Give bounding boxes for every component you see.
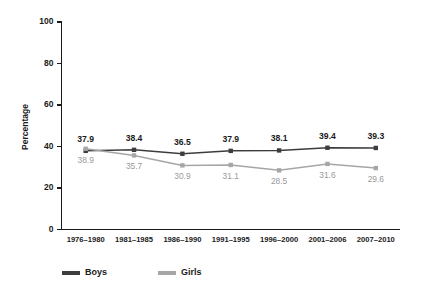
data-label-girls-0: 38.9 <box>78 155 95 165</box>
y-tick-label: 20 <box>44 182 54 192</box>
y-tick-label: 80 <box>44 58 54 68</box>
data-label-girls-2: 30.9 <box>174 171 191 181</box>
data-point-girls-3 <box>229 163 233 167</box>
data-point-boys-2 <box>180 152 184 156</box>
x-tick-label: 1996–2000 <box>260 235 298 244</box>
x-tick-label: 1991–1995 <box>212 235 251 244</box>
data-point-boys-6 <box>374 146 378 150</box>
data-labels-layer: 37.938.436.537.938.139.439.338.935.730.9… <box>77 131 384 187</box>
data-label-girls-5: 31.6 <box>319 170 336 180</box>
y-tick-label: 100 <box>39 16 53 26</box>
data-label-girls-1: 35.7 <box>126 161 143 171</box>
data-point-girls-0 <box>83 147 87 151</box>
data-label-boys-4: 38.1 <box>271 133 288 143</box>
data-label-girls-3: 31.1 <box>223 171 240 181</box>
data-point-girls-6 <box>374 166 378 170</box>
y-tick-label: 60 <box>44 99 54 109</box>
legend-label-girls: Girls <box>181 267 202 277</box>
x-tick-label: 2001–2006 <box>308 235 346 244</box>
data-label-girls-6: 29.6 <box>368 174 385 184</box>
x-tick-label: 2007–2010 <box>357 235 395 244</box>
x-tick-label: 1986–1990 <box>163 235 201 244</box>
chart-container: Percentage 020406080100 1976–19801981–19… <box>0 0 424 291</box>
y-tick-label: 40 <box>44 141 54 151</box>
data-point-boys-4 <box>277 148 281 152</box>
data-label-girls-4: 28.5 <box>271 176 288 186</box>
data-point-boys-3 <box>229 149 233 153</box>
line-chart: Percentage 020406080100 1976–19801981–19… <box>0 0 424 291</box>
x-tick-label: 1976–1980 <box>67 235 105 244</box>
y-axis-ticks: 020406080100 <box>39 16 61 234</box>
data-point-girls-1 <box>132 153 136 157</box>
data-point-boys-5 <box>325 146 329 150</box>
data-label-boys-6: 39.3 <box>367 131 384 141</box>
data-point-boys-1 <box>132 148 136 152</box>
data-label-boys-5: 39.4 <box>319 131 336 141</box>
x-tick-label: 1981–1985 <box>115 235 154 244</box>
y-axis-title: Percentage <box>20 104 30 150</box>
data-label-boys-2: 36.5 <box>174 137 191 147</box>
data-label-boys-0: 37.9 <box>77 134 94 144</box>
legend-label-boys: Boys <box>85 267 107 277</box>
axis-lines <box>62 22 401 230</box>
x-axis-tick-labels: 1976–19801981–19851986–19901991–19951996… <box>67 235 395 244</box>
chart-legend: BoysGirls <box>62 267 202 277</box>
data-label-boys-1: 38.4 <box>126 133 143 143</box>
data-point-girls-5 <box>325 162 329 166</box>
data-point-girls-4 <box>277 168 281 172</box>
y-tick-label: 0 <box>49 224 54 234</box>
data-point-girls-2 <box>180 163 184 167</box>
data-label-boys-3: 37.9 <box>222 134 239 144</box>
